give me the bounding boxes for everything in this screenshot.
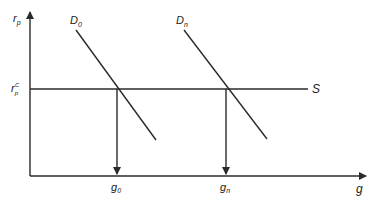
x-axis-label: g (356, 182, 363, 196)
equilibrium-label-g0: g0 (111, 181, 121, 194)
demand-curve-d0 (76, 30, 156, 140)
supply-label: S (312, 82, 320, 96)
y-axis-label: rp (13, 12, 21, 27)
demand-label-d0: D0 (70, 14, 82, 28)
supply-demand-diagram: rp g rpC S D0 Dn g0 gn (0, 0, 380, 203)
demand-label-dn: Dn (176, 14, 188, 28)
equilibrium-label-gn: gn (220, 181, 230, 194)
supply-level-label: rpC (11, 82, 20, 96)
